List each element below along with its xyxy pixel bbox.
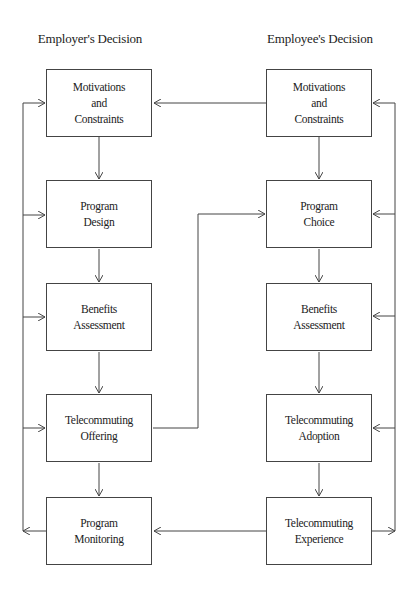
- box-label: Telecommuting Offering: [65, 412, 133, 444]
- box-label: Program Design: [80, 198, 118, 230]
- employee-motivations-box: Motivations and Constraints: [266, 69, 372, 137]
- employer-telecommuting-offering-box: Telecommuting Offering: [46, 394, 152, 462]
- employer-benefits-assessment-box: Benefits Assessment: [46, 283, 152, 351]
- box-label: Benefits Assessment: [293, 301, 344, 333]
- box-label: Program Choice: [300, 198, 338, 230]
- box-label: Benefits Assessment: [73, 301, 124, 333]
- employee-telecommuting-experience-box: Telecommuting Experience: [266, 497, 372, 565]
- box-label: Motivations and Constraints: [73, 79, 125, 127]
- box-label: Program Monitoring: [74, 515, 123, 547]
- box-label: Telecommuting Experience: [285, 515, 353, 547]
- employer-program-design-box: Program Design: [46, 180, 152, 248]
- employee-telecommuting-adoption-box: Telecommuting Adoption: [266, 394, 372, 462]
- employer-motivations-box: Motivations and Constraints: [46, 69, 152, 137]
- box-label: Telecommuting Adoption: [285, 412, 353, 444]
- box-label: Motivations and Constraints: [293, 79, 345, 127]
- employer-program-monitoring-box: Program Monitoring: [46, 497, 152, 565]
- employee-benefits-assessment-box: Benefits Assessment: [266, 283, 372, 351]
- employee-program-choice-box: Program Choice: [266, 180, 372, 248]
